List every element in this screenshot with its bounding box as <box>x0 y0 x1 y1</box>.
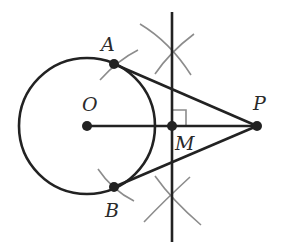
arc-bottom-right <box>144 177 190 222</box>
point-p <box>252 121 262 131</box>
point-o <box>82 121 92 131</box>
label-b: B <box>104 199 119 221</box>
label-a: A <box>99 33 115 55</box>
arc-top-left <box>140 24 191 75</box>
point-m <box>167 121 177 131</box>
label-m: M <box>174 132 195 154</box>
arc-bottom-left <box>155 176 201 225</box>
point-a <box>109 59 119 69</box>
label-o: O <box>82 93 98 115</box>
tangent-construction-diagram: A O M P B <box>0 0 284 251</box>
label-p: P <box>252 92 267 114</box>
point-b <box>109 182 119 192</box>
